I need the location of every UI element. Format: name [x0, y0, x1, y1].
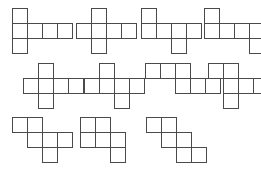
net-cell: [27, 132, 43, 148]
net-cell: [129, 78, 145, 94]
net-cell: [42, 23, 58, 39]
net-cell: [156, 23, 172, 39]
net-cell: [219, 23, 235, 39]
net-cell: [171, 38, 187, 54]
net-cell: [91, 38, 107, 54]
net-cell: [253, 78, 261, 94]
net-cell: [57, 23, 73, 39]
net-cell: [12, 117, 28, 133]
net-cell: [12, 8, 28, 24]
net-cell: [38, 93, 54, 109]
net-cell: [38, 78, 54, 94]
net-cell: [114, 78, 130, 94]
net-cell: [190, 78, 206, 94]
net-cell: [95, 117, 111, 133]
net-cell: [23, 78, 39, 94]
net-cell: [234, 23, 250, 39]
net-cell: [99, 78, 115, 94]
net-cell: [145, 63, 161, 79]
net-cell: [161, 132, 177, 148]
net-cell: [160, 63, 176, 79]
net-cell: [175, 63, 191, 79]
net-cell: [249, 38, 261, 54]
net-cell: [175, 78, 191, 94]
net-cell: [84, 78, 100, 94]
net-cell: [27, 117, 43, 133]
net-cell: [176, 147, 192, 163]
net-cell: [141, 23, 157, 39]
net-cell: [27, 23, 43, 39]
net-cell: [249, 23, 261, 39]
net-cell: [223, 63, 239, 79]
net-cell: [208, 63, 224, 79]
net-cell: [80, 117, 96, 133]
net-cell: [205, 78, 221, 94]
net-cell: [176, 132, 192, 148]
net-cell: [204, 23, 220, 39]
net-cell: [42, 132, 58, 148]
net-cell: [106, 23, 122, 39]
net-cell: [204, 8, 220, 24]
net-cell: [238, 78, 254, 94]
net-cell: [99, 63, 115, 79]
net-cell: [186, 23, 202, 39]
net-cell: [12, 23, 28, 39]
net-cell: [95, 132, 111, 148]
net-cell: [121, 23, 137, 39]
net-cell: [146, 117, 162, 133]
net-cell: [91, 8, 107, 24]
net-cell: [141, 8, 157, 24]
net-cell: [76, 23, 92, 39]
net-cell: [191, 147, 207, 163]
net-cell: [91, 23, 107, 39]
net-cell: [223, 93, 239, 109]
net-cell: [171, 23, 187, 39]
net-cell: [161, 117, 177, 133]
net-cell: [57, 132, 73, 148]
net-cell: [80, 132, 96, 148]
net-cell: [110, 132, 126, 148]
net-cell: [42, 147, 58, 163]
net-cell: [12, 38, 28, 54]
hexomino-nets-figure: [0, 0, 261, 169]
net-cell: [53, 78, 69, 94]
net-cell: [223, 78, 239, 94]
net-cell: [110, 147, 126, 163]
net-cell: [68, 78, 84, 94]
net-cell: [38, 63, 54, 79]
net-cell: [114, 93, 130, 109]
